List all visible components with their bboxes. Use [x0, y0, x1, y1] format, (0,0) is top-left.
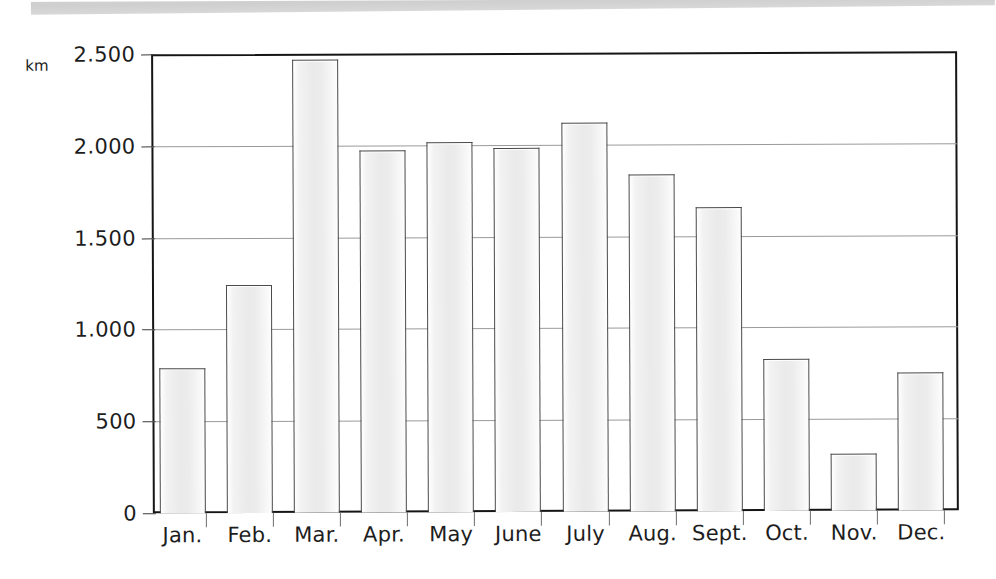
- bar: [427, 142, 474, 512]
- bar: [831, 454, 877, 511]
- bar: [292, 59, 340, 513]
- plot-area: [151, 51, 959, 513]
- x-axis-tick-mark: [273, 513, 274, 527]
- y-axis-tick-mark: [142, 238, 155, 239]
- y-axis-tick-mark: [143, 513, 156, 514]
- x-axis-tick-label: Oct.: [765, 521, 809, 545]
- x-axis-tick-mark: [541, 512, 542, 526]
- bar-chart-figure: km 05001.0001.5002.0002.500 Jan.Feb.Mar.…: [0, 0, 996, 579]
- y-axis-tick-mark: [143, 422, 156, 423]
- x-axis-tick-label: Mar.: [294, 523, 339, 547]
- bar: [628, 174, 675, 511]
- bar: [561, 122, 608, 511]
- x-axis-tick-mark: [340, 513, 341, 527]
- x-axis-tick-label: May: [429, 522, 473, 546]
- y-axis-tick-mark: [141, 54, 154, 55]
- x-axis-tick-mark: [407, 512, 408, 526]
- x-axis-tick-mark: [676, 511, 677, 525]
- y-axis-tick-labels: 05001.0001.5002.0002.500: [43, 1, 137, 579]
- y-axis-tick-label: 1.500: [44, 226, 136, 250]
- bar: [360, 151, 407, 513]
- bar: [494, 147, 541, 512]
- y-axis-tick-label: 2.000: [43, 134, 135, 158]
- x-axis-tick-label: Feb.: [227, 523, 272, 547]
- x-axis-tick-mark: [608, 512, 609, 526]
- x-axis-tick-label: Nov.: [831, 521, 878, 545]
- x-axis-tick-label: Sept.: [692, 521, 748, 545]
- y-axis-tick-mark: [141, 146, 154, 147]
- bar: [226, 285, 273, 513]
- x-axis-tick-mark: [205, 513, 206, 527]
- bar: [696, 207, 743, 511]
- x-axis-tick-labels: Jan.Feb.Mar.Apr.MayJuneJulyAug.Sept.Oct.…: [1, 520, 996, 564]
- x-axis-tick-label: Jan.: [163, 523, 203, 547]
- bar: [159, 368, 206, 513]
- y-axis-tick-mark: [142, 330, 155, 331]
- x-axis-tick-label: Apr.: [363, 522, 405, 546]
- x-axis-tick-mark: [810, 511, 811, 525]
- x-axis-tick-label: Aug.: [628, 521, 677, 545]
- x-axis-tick-mark: [944, 510, 945, 524]
- x-axis-tick-mark: [743, 511, 744, 525]
- y-axis-tick-label: 1.000: [44, 318, 136, 342]
- bar: [763, 358, 810, 511]
- bar: [898, 373, 945, 511]
- y-axis-tick-label: 0: [45, 501, 137, 525]
- x-axis-tick-label: Dec.: [897, 520, 945, 544]
- x-axis-tick-label: June: [495, 522, 542, 546]
- x-axis-tick-mark: [877, 511, 878, 525]
- bar-series: [151, 51, 959, 513]
- x-axis-tick-label: July: [566, 522, 605, 546]
- x-axis-tick-mark: [474, 512, 475, 526]
- y-axis-tick-label: 500: [44, 410, 136, 434]
- y-axis-tick-label: 2.500: [43, 42, 135, 66]
